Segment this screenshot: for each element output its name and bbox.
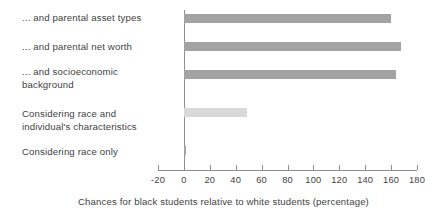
bar-1: [184, 42, 402, 51]
x-tick-label-180: 180: [402, 175, 432, 185]
x-tick-120: [339, 165, 340, 170]
x-tick-40: [236, 165, 237, 170]
bar-0: [184, 14, 391, 23]
x-tick-140: [365, 165, 366, 170]
bar-2: [184, 70, 396, 79]
x-tick-0: [184, 165, 185, 170]
bar-4: [184, 146, 187, 155]
x-tick--20: [158, 165, 159, 170]
x-tick-60: [262, 165, 263, 170]
x-tick-160: [391, 165, 392, 170]
x-tick-100: [313, 165, 314, 170]
bar-chart: ... and parental asset types ... and par…: [0, 0, 447, 216]
x-axis-line: [158, 170, 417, 171]
plot-area: [0, 0, 447, 170]
zero-baseline: [184, 10, 185, 165]
x-tick-180: [417, 165, 418, 170]
bar-3: [184, 108, 247, 117]
x-axis-title: Chances for black students relative to w…: [0, 196, 447, 207]
x-tick-20: [210, 165, 211, 170]
x-tick-80: [288, 165, 289, 170]
